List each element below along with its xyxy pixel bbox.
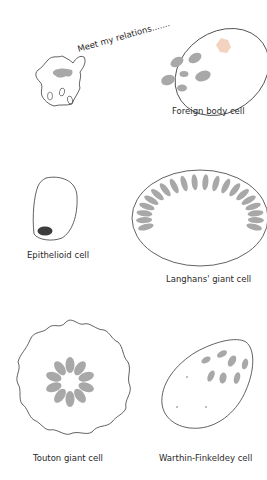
foreign-body-label: Foreign body cell [172,106,245,116]
touton-giant-cell [17,320,130,434]
warthin-finkeldey-cell [162,340,253,429]
epithelioid-cell [33,177,77,240]
touton-label: Touton giant cell [33,453,103,463]
macrophage-cell [36,56,85,106]
epithelioid-label: Epithelioid cell [27,250,89,260]
warthin-finkeldey-label: Warthin-Finkeldey cell [159,453,252,463]
langhans-label: Langhans' giant cell [166,274,251,284]
langhans-giant-cell [132,170,267,266]
cells-illustration [0,0,267,480]
